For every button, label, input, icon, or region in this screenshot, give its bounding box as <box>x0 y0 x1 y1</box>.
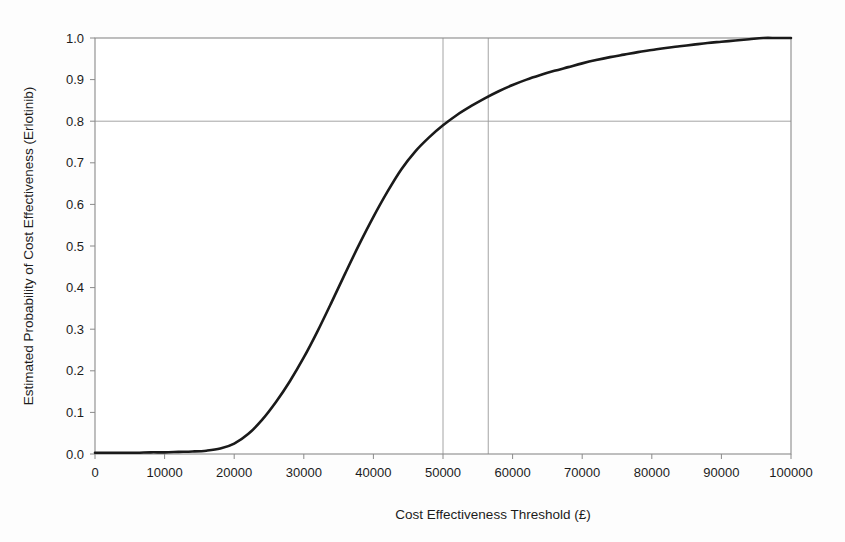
y-tick-label: 0.6 <box>66 197 84 212</box>
y-tick-label: 0.9 <box>66 72 84 87</box>
x-tick-label: 70000 <box>564 465 600 480</box>
figure-canvas: 0100002000030000400005000060000700008000… <box>0 0 845 542</box>
x-tick-label: 90000 <box>703 465 739 480</box>
x-tick-label: 10000 <box>147 465 183 480</box>
y-tick-label: 0.5 <box>66 239 84 254</box>
x-axis-title: Cost Effectiveness Threshold (£) <box>395 507 590 522</box>
y-tick-label: 1.0 <box>66 31 84 46</box>
y-tick-label: 0.3 <box>66 322 84 337</box>
x-tick-label: 20000 <box>216 465 252 480</box>
cost-effectiveness-acceptability-curve: 0100002000030000400005000060000700008000… <box>0 0 845 542</box>
y-tick-label: 0.0 <box>66 447 84 462</box>
y-tick-label: 0.7 <box>66 155 84 170</box>
x-tick-label: 40000 <box>355 465 391 480</box>
y-tick-label: 0.1 <box>66 405 84 420</box>
y-axis-title: Estimated Probability of Cost Effectiven… <box>21 87 36 406</box>
x-tick-label: 50000 <box>425 465 461 480</box>
y-tick-label: 0.8 <box>66 114 84 129</box>
y-tick-label: 0.4 <box>66 280 84 295</box>
x-tick-label: 80000 <box>634 465 670 480</box>
x-tick-label: 0 <box>91 465 98 480</box>
x-tick-label: 100000 <box>769 465 812 480</box>
y-tick-label: 0.2 <box>66 363 84 378</box>
x-tick-label: 30000 <box>286 465 322 480</box>
x-tick-label: 60000 <box>495 465 531 480</box>
